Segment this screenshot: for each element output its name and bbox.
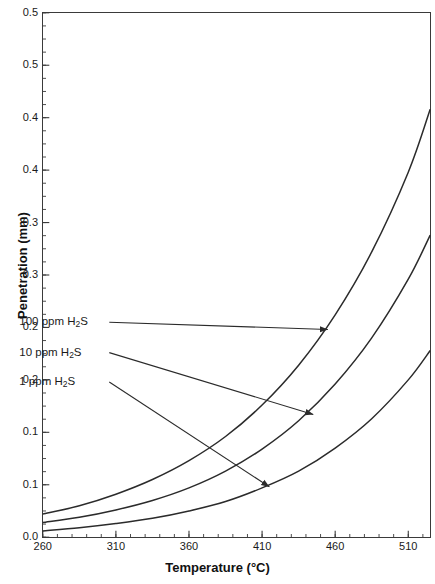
chart-root: Penetration (mm) 0.00.10.10.20.20.30.30.… [0,0,435,584]
x-tick-label: 360 [169,541,209,552]
x-tick-label: 460 [315,541,355,552]
annotation-text: 1 ppm H [19,375,62,387]
y-tick-label: 0.1 [4,479,38,490]
x-tick-label: 310 [96,541,136,552]
y-tick-label: 0.3 [4,217,38,228]
series-annotation-label: 10 ppm H2S [19,346,81,362]
x-tick-label: 260 [23,541,63,552]
x-tick-label: 510 [388,541,428,552]
y-tick-label: 0.1 [4,426,38,437]
series-annotation-label: 1 ppm H2S [19,375,75,391]
plot-area-frame [42,12,431,538]
y-tick-label: 0.4 [4,164,38,175]
annotation-text-tail: S [67,375,75,387]
y-tick-label: 0.3 [4,269,38,280]
y-tick-label: 0.5 [4,7,38,18]
annotation-text: 10 ppm H [19,346,69,358]
y-axis-tick-labels: 0.00.10.10.20.20.30.30.40.40.50.5 [0,0,38,584]
x-tick-label: 410 [242,541,282,552]
annotation-text: 100 ppm H [19,315,75,327]
series-annotation-label: 100 ppm H2S [19,315,88,331]
y-tick-label: 0.4 [4,112,38,123]
x-axis-title: Temperature (°C) [0,560,435,575]
y-tick-label: 0.5 [4,59,38,70]
annotation-text-tail: S [80,315,88,327]
annotation-text-tail: S [74,346,82,358]
